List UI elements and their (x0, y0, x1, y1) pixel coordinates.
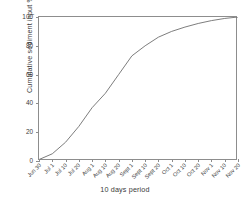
x-axis-title: 10 days period (0, 185, 250, 194)
x-tick-mark (238, 159, 239, 162)
x-tick-label: Oct 20 (185, 162, 201, 178)
y-tick-mark (36, 103, 39, 104)
y-tick-mark (36, 75, 39, 76)
y-tick-label: 20 (26, 128, 33, 135)
data-line-svg (39, 17, 238, 161)
plot-area (38, 16, 237, 160)
y-tick-label: 40 (26, 99, 33, 106)
y-tick-label: 100 (22, 13, 33, 20)
y-tick-mark (36, 17, 39, 18)
y-tick-mark (36, 46, 39, 47)
chart-figure: Cumulative sediment input % 020406080100… (0, 0, 250, 202)
y-tick-label: 0 (29, 157, 33, 164)
x-tick-label: Jul 10 (53, 162, 68, 177)
x-tick-label: Jul 20 (67, 162, 82, 177)
series-line-cumulative-sediment-input (39, 17, 238, 160)
x-tick-label: Oct 10 (172, 162, 188, 178)
y-tick-mark (36, 132, 39, 133)
y-tick-label: 80 (26, 41, 33, 48)
x-axis-tick-labels: Jun 30Jul 1Jul 10Jul 20Aug 1Aug 10Aug 20… (38, 160, 237, 186)
y-tick-label: 60 (26, 70, 33, 77)
